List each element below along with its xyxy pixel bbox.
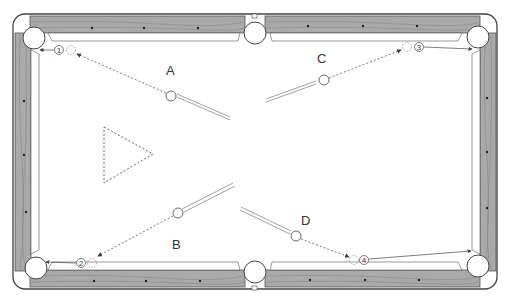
pocket-top-center: [244, 22, 266, 44]
pocket-top-left: [23, 27, 45, 49]
bottom-right-rail: [265, 270, 480, 287]
cue-ball-d: [291, 231, 301, 241]
pocket-bottom-left: [25, 257, 47, 279]
pocket-bottom-right: [467, 255, 489, 277]
label-c: C: [317, 51, 326, 66]
label-a: A: [166, 63, 175, 78]
top-right-rail: [265, 16, 480, 33]
cue-ball-a: [166, 91, 176, 101]
cue-ball-b: [173, 208, 183, 218]
pocket-top-right: [467, 26, 489, 48]
table-frame: [13, 14, 497, 290]
cue-ball-c: [319, 75, 329, 85]
bottom-left-rail: [30, 270, 245, 287]
svg-text:4: 4: [362, 256, 367, 265]
pocket-bottom-center: [244, 261, 266, 283]
svg-text:1: 1: [57, 46, 62, 55]
label-d: D: [301, 213, 310, 228]
pool-table-diagram: 1 A 3 C 2 B 4 D: [0, 0, 511, 302]
svg-text:3: 3: [417, 43, 422, 52]
svg-text:2: 2: [79, 259, 84, 268]
top-left-rail: [30, 16, 245, 33]
label-b: B: [172, 237, 181, 252]
